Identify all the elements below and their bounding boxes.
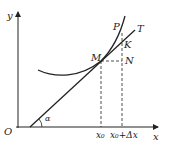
point-K-label: K [124, 40, 131, 50]
tangent-diagram: y x O α M N K P T x₀ x₀+Δx [0, 0, 171, 153]
tangent-line [30, 30, 135, 127]
x-axis-label: x [153, 132, 159, 142]
x0-label: x₀ [96, 131, 105, 140]
angle-label: α [45, 115, 50, 123]
diagram-canvas [0, 0, 171, 153]
curve [38, 16, 125, 75]
x0-dx-label: x₀+Δx [110, 131, 138, 140]
point-N-label: N [125, 56, 134, 66]
point-P-label: P [113, 22, 120, 32]
origin-label: O [4, 127, 12, 137]
y-axis-label: y [7, 11, 13, 21]
angle-arc [39, 119, 42, 127]
point-M-label: M [91, 53, 101, 63]
tangent-T-label: T [137, 24, 144, 34]
